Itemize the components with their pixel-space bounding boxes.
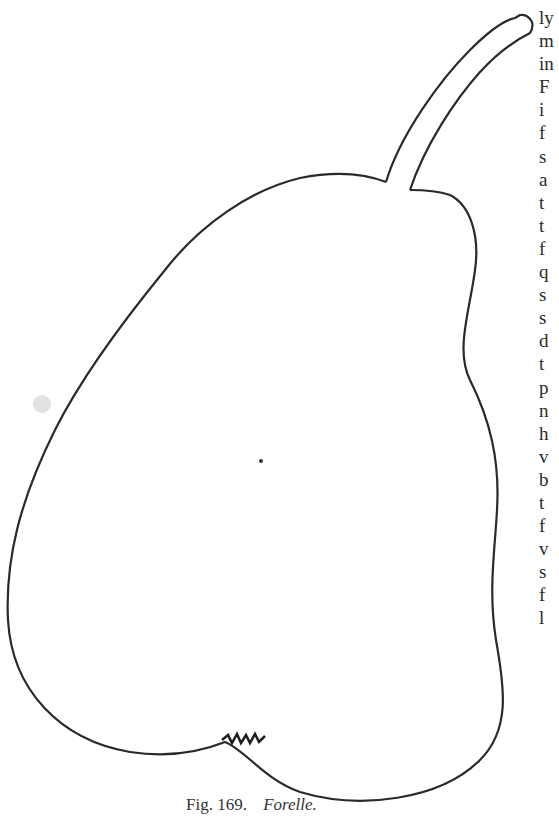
text-line: in [539,52,559,75]
text-line: t [539,352,559,375]
text-line: F [539,75,559,98]
text-line: d [539,329,559,352]
text-line: f [539,583,559,606]
text-line: f [539,237,559,260]
text-line: h [539,422,559,445]
text-line: t [539,491,559,514]
text-line: b [539,468,559,491]
text-line: m [539,29,559,52]
text-line: n [539,399,559,422]
text-line: v [539,537,559,560]
text-line: f [539,514,559,537]
text-line: t [539,191,559,214]
text-line: q [539,260,559,283]
text-line: p [539,376,559,399]
text-line: s [539,306,559,329]
text-line: l [539,606,559,629]
figure-name: Forelle. [263,795,317,814]
cropped-text-column: ly m in F i f s a t t f q s s d t p n h … [539,6,559,630]
text-line: a [539,168,559,191]
text-line: s [539,560,559,583]
text-line: s [539,145,559,168]
text-line: s [539,283,559,306]
text-line: v [539,445,559,468]
figure-caption: Fig. 169. Forelle. [186,795,317,815]
text-line: f [539,121,559,144]
text-line: i [539,98,559,121]
text-line: ly [539,6,559,29]
text-line: t [539,214,559,237]
figure-number: Fig. 169. [186,795,247,814]
